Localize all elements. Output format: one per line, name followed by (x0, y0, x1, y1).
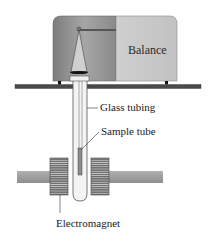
label-electromagnet: Electromagnet (56, 217, 120, 229)
label-sample-tube: Sample tube (101, 125, 156, 137)
shelf-bar (15, 85, 201, 89)
magnet-rod-left (17, 171, 51, 183)
magnet-rod-right (107, 171, 163, 183)
gouy-balance-diagram: Balance Glass tubing Sample tube Electro… (0, 0, 215, 240)
balance-foot-right (165, 81, 168, 85)
balance-foot-left (58, 81, 61, 85)
label-glass-tubing: Glass tubing (100, 101, 156, 113)
sample-tube (78, 148, 82, 175)
electromagnet-coil-left (50, 158, 68, 195)
electromagnet-coil-right (91, 158, 109, 195)
glass-tubing (70, 76, 89, 201)
suspension-pan (70, 71, 88, 74)
label-balance: Balance (128, 43, 167, 57)
glass-tube-collar (70, 76, 89, 81)
glass-tube-body (73, 80, 87, 201)
